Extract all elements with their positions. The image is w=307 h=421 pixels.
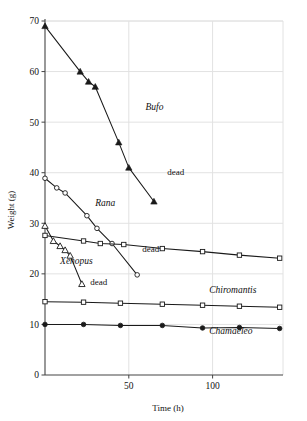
data-point-filled-triangle [42,23,48,29]
series-label-chiromantis-low: Chiromantis [209,285,256,295]
data-point-open-square [237,304,241,308]
series-label-bufo: Bufo [146,102,164,112]
y-tick-label: 20 [30,269,40,279]
y-tick-label: 60 [30,67,40,77]
y-axis-title: Weight (g) [6,191,16,230]
data-point-open-square [237,253,241,257]
series-chiromantis-low [43,299,282,309]
x-tick-label: 50 [124,381,134,391]
x-tick-label: 100 [205,381,220,391]
dead-label-rana: dead [142,244,159,254]
data-point-open-square [277,305,281,309]
data-point-open-circle [95,226,100,231]
data-point-open-square [43,299,47,303]
data-point-filled-circle [277,326,282,331]
data-point-open-triangle [79,281,85,287]
series-xenopus [42,223,85,287]
dead-label-bufo: dead [167,167,184,177]
data-point-open-square [160,302,164,306]
data-point-open-square [200,303,204,307]
data-point-filled-circle [160,323,165,328]
y-tick-label: 30 [30,219,40,229]
data-point-open-square [43,233,47,237]
y-tick-label: 40 [30,168,40,178]
data-point-filled-triangle [116,139,122,145]
data-point-open-square [160,246,164,250]
data-point-open-circle [135,273,140,278]
y-tick-label: 0 [34,370,39,380]
y-tick-label: 10 [30,320,40,330]
data-point-filled-triangle [126,164,132,170]
data-point-open-square [277,256,281,260]
y-tick-label: 70 [30,16,40,26]
data-point-open-square [81,239,85,243]
data-point-filled-circle [43,322,48,327]
data-point-open-circle [85,213,90,218]
data-point-open-square [122,242,126,246]
chart-container: 010203040506070 50100 BufoRanaXenopusChi… [0,0,307,421]
series-label-xenopus: Xenopus [59,256,93,266]
data-point-open-circle [63,191,68,196]
data-point-filled-circle [118,323,123,328]
data-point-open-square [200,249,204,253]
data-point-open-square [98,241,102,245]
data-point-open-circle [43,176,48,181]
data-point-open-square [81,300,85,304]
data-point-open-square [118,301,122,305]
series-line [45,26,154,201]
series-label-chamaeleo: Chamaeleo [209,326,253,336]
data-point-open-circle [54,186,59,191]
x-tick-labels: 50100 [124,375,220,391]
x-axis-title: Time (h) [152,403,183,413]
y-tick-label: 50 [30,118,40,128]
dead-label-xenopus: dead [90,277,107,287]
weight-vs-time-line-chart: 010203040506070 50100 BufoRanaXenopusChi… [0,0,307,421]
data-point-filled-circle [81,322,86,327]
data-point-open-triangle [50,238,56,244]
dead-annotations: deaddeaddead [85,167,185,287]
series-label-rana: Rana [94,198,115,208]
data-point-filled-circle [200,326,205,331]
series-bufo [42,23,157,204]
